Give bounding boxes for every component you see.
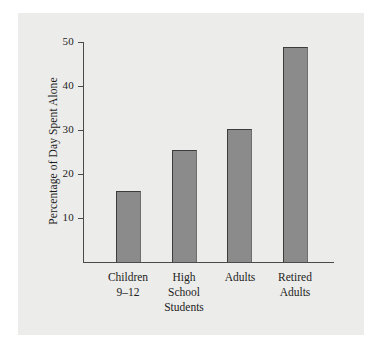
x-category-label-retired-adults: RetiredAdults	[252, 270, 338, 300]
x-category-label-line: School	[141, 285, 227, 300]
figure: Percentage of Day Spent Alone 50 40 30 2…	[0, 0, 382, 348]
x-category-label-line: Adults	[252, 285, 338, 300]
y-tick-40	[78, 86, 84, 87]
y-tick-label-20: 20	[48, 167, 74, 179]
x-category-label-line: Students	[141, 300, 227, 315]
y-tick-label-20-wrap: 20	[48, 167, 74, 181]
y-tick-label-40: 40	[48, 79, 74, 91]
y-tick-label-10-wrap: 10	[48, 211, 74, 225]
y-tick-label-30-wrap: 30	[48, 123, 74, 137]
x-category-label-line: Retired	[252, 270, 338, 285]
y-tick-50	[78, 42, 84, 43]
y-tick-label-40-wrap: 40	[48, 79, 74, 93]
y-tick-label-50-wrap: 50	[48, 35, 74, 49]
y-axis-line	[83, 42, 84, 263]
y-tick-label-10: 10	[48, 211, 74, 223]
y-tick-30	[78, 130, 84, 131]
bar-children-9-12	[116, 191, 141, 263]
bar-adults	[227, 129, 252, 262]
bar-chart: Percentage of Day Spent Alone 50 40 30 2…	[0, 0, 382, 348]
y-tick-20	[78, 174, 84, 175]
y-tick-label-30: 30	[48, 123, 74, 135]
bar-high-school-students	[172, 150, 197, 262]
bar-retired-adults	[283, 47, 308, 263]
y-tick-10	[78, 218, 84, 219]
y-tick-label-50: 50	[48, 35, 74, 47]
